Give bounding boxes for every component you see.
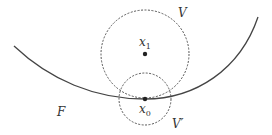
label-V-prime: V′ [172, 118, 183, 130]
label-x1: x1 [139, 36, 151, 51]
curve-F [14, 17, 258, 99]
label-F: F [57, 106, 65, 118]
label-x0-base: x [139, 102, 146, 116]
diagram-canvas: V x1 x0 F V′ [0, 0, 272, 135]
label-x0-sub: 0 [146, 109, 151, 118]
label-x1-base: x [139, 35, 146, 49]
label-x1-sub: 1 [146, 42, 151, 51]
label-x0: x0 [139, 103, 151, 118]
diagram-svg [0, 0, 272, 135]
point-x0 [143, 97, 147, 101]
label-V: V [178, 7, 187, 19]
point-x1 [143, 52, 147, 56]
